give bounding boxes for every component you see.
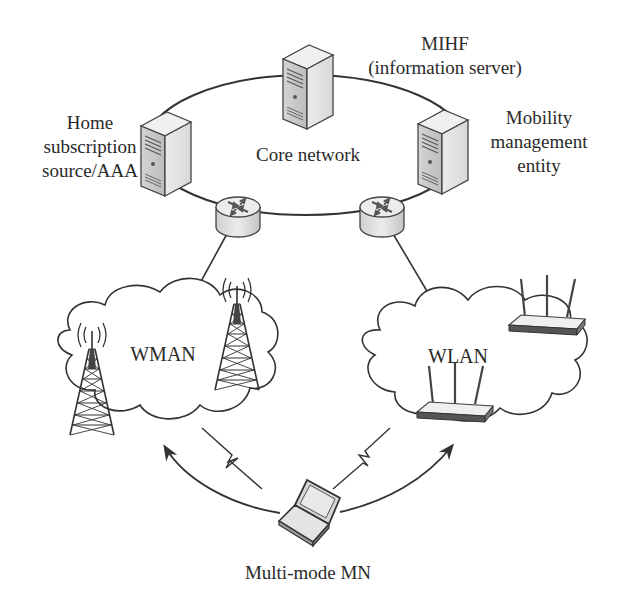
label-line: WMAN [118, 342, 208, 366]
network-diagram: MIHF (information server) Home subscript… [0, 0, 617, 604]
label-line: management [474, 130, 604, 154]
label-line: entity [474, 154, 604, 178]
router-icon-left [216, 197, 260, 237]
label-multi-mode-mn: Multi-mode MN [228, 561, 388, 585]
server-icon-mobility-management [418, 110, 468, 194]
label-mobility-management: Mobility management entity [474, 106, 604, 178]
label-line: (information server) [350, 56, 540, 80]
label-line: subscription [38, 135, 142, 159]
wireless-link-wlan [333, 428, 390, 489]
label-core-network: Core network [238, 143, 378, 167]
label-line: Mobility [474, 106, 604, 130]
label-mihf: MIHF (information server) [350, 32, 540, 80]
label-line: Core network [238, 143, 378, 167]
label-line: WLAN [418, 344, 498, 368]
label-wlan: WLAN [418, 344, 498, 368]
label-wman: WMAN [118, 342, 208, 366]
label-line: Multi-mode MN [228, 561, 388, 585]
movement-arrow-to-wman [165, 447, 280, 513]
label-line: MIHF [350, 32, 540, 56]
server-icon-mihf [283, 45, 333, 129]
movement-arrow-to-wlan [340, 446, 452, 512]
label-line: source/AAA [38, 159, 142, 183]
label-home-aaa: Home subscription source/AAA [38, 111, 142, 183]
laptop-icon [279, 480, 340, 546]
router-icon-right [360, 197, 404, 237]
wireless-link-wman [202, 428, 262, 489]
label-line: Home [38, 111, 142, 135]
server-icon-home-aaa [141, 112, 191, 196]
